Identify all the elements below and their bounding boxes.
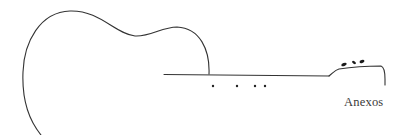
tuning-peg-icon [341, 62, 347, 67]
fret-marker-dot [236, 85, 238, 87]
caption-anexos: Anexos [344, 95, 383, 110]
guitar-body-outline [23, 11, 209, 135]
guitar-headstock [329, 66, 385, 85]
tuning-pegs [341, 59, 365, 66]
fret-marker-dot [254, 85, 256, 87]
page-canvas: Anexos [0, 0, 410, 135]
fret-markers [212, 85, 266, 87]
tuning-peg-icon [359, 59, 365, 63]
tuning-peg-icon [351, 60, 356, 65]
guitar-illustration [0, 0, 410, 135]
guitar-neck-line [164, 75, 329, 77]
fret-marker-dot [264, 85, 266, 87]
fret-marker-dot [212, 85, 214, 87]
